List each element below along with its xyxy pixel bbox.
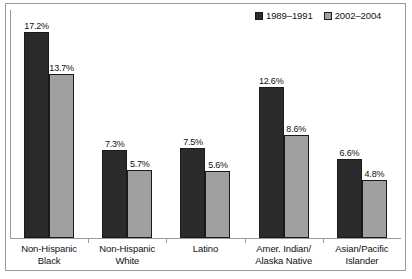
- category-label-line: Non-Hispanic: [88, 243, 166, 255]
- bar-rect: [362, 180, 387, 238]
- category-label-line: Black: [10, 255, 88, 267]
- bar-rect: [127, 170, 152, 238]
- bar-value-label: 8.6%: [274, 124, 318, 134]
- x-axis-category-labels: Non-HispanicBlackNon-HispanicWhiteLatino…: [10, 243, 401, 273]
- bar-group: 17.2%13.7%: [10, 10, 88, 238]
- category-label-line: Asian/Pacific: [323, 243, 401, 255]
- category-label: Asian/PacificIslander: [323, 243, 401, 266]
- bar-value-label: 6.6%: [327, 148, 371, 158]
- bar-value-label: 7.5%: [171, 137, 215, 147]
- bar-value-label: 7.3%: [93, 139, 137, 149]
- category-label-line: White: [88, 255, 166, 267]
- bar-series-2002-2004[interactable]: [49, 74, 74, 238]
- category-label: Non-HispanicBlack: [10, 243, 88, 266]
- bar-value-label: 12.6%: [249, 76, 293, 86]
- x-axis-line: [10, 238, 401, 239]
- bar-rect: [49, 74, 74, 238]
- category-label-line: Latino: [166, 243, 244, 255]
- bar-series-2002-2004[interactable]: [205, 171, 230, 238]
- bar-value-label: 17.2%: [15, 21, 59, 31]
- category-label-line: Non-Hispanic: [10, 243, 88, 255]
- y-axis-line: [10, 10, 11, 238]
- bar-value-label: 5.7%: [118, 159, 162, 169]
- category-label-line: Amer. Indian/: [245, 243, 323, 255]
- bar-group: 7.5%5.6%: [166, 10, 244, 238]
- bar-rect: [205, 171, 230, 238]
- category-label: Latino: [166, 243, 244, 255]
- bar-value-label: 5.6%: [196, 160, 240, 170]
- bar-group: 7.3%5.7%: [88, 10, 166, 238]
- bar-series-2002-2004[interactable]: [127, 170, 152, 238]
- bar-value-label: 4.8%: [352, 169, 396, 179]
- bar-series-1989-1991[interactable]: [259, 87, 284, 238]
- category-label-line: Alaska Native: [245, 255, 323, 267]
- bar-group: 6.6%4.8%: [323, 10, 401, 238]
- bar-rect: [284, 135, 309, 238]
- bar-series-2002-2004[interactable]: [362, 180, 387, 238]
- bar-group: 12.6%8.6%: [245, 10, 323, 238]
- bar-chart-figure: 1989–1991 2002–2004 17.2%13.7%7.3%5.7%7.…: [0, 0, 412, 279]
- bar-value-label: 13.7%: [40, 63, 84, 73]
- bar-series-2002-2004[interactable]: [284, 135, 309, 238]
- category-label: Amer. Indian/Alaska Native: [245, 243, 323, 266]
- bar-rect: [259, 87, 284, 238]
- category-label-line: Islander: [323, 255, 401, 267]
- plot-area: 17.2%13.7%7.3%5.7%7.5%5.6%12.6%8.6%6.6%4…: [10, 10, 401, 238]
- category-label: Non-HispanicWhite: [88, 243, 166, 266]
- bottom-caption: [8, 273, 408, 279]
